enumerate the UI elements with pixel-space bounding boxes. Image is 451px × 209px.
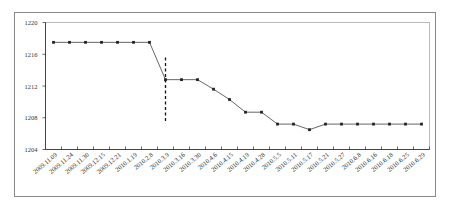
data-point xyxy=(180,78,183,81)
data-point xyxy=(212,88,215,91)
data-point xyxy=(100,41,103,44)
data-point xyxy=(148,41,151,44)
line-chart: 12041208121212161220 2009.11.092009.11.2… xyxy=(0,0,451,209)
data-point xyxy=(276,123,279,126)
y-tick-label: 1208 xyxy=(25,114,38,121)
data-point xyxy=(84,41,87,44)
y-tick-label: 1220 xyxy=(25,19,38,26)
data-point xyxy=(196,78,199,81)
data-point xyxy=(116,41,119,44)
data-point xyxy=(52,41,55,44)
data-point xyxy=(420,123,423,126)
data-point xyxy=(324,123,327,126)
data-point xyxy=(404,123,407,126)
data-point xyxy=(244,111,247,114)
data-point xyxy=(228,98,231,101)
data-point xyxy=(292,123,295,126)
y-tick-label: 1212 xyxy=(25,83,38,90)
data-point xyxy=(260,111,263,114)
data-point xyxy=(68,41,71,44)
data-point xyxy=(388,123,391,126)
data-point xyxy=(356,123,359,126)
data-point xyxy=(308,128,311,131)
data-point xyxy=(132,41,135,44)
data-point xyxy=(340,123,343,126)
data-point xyxy=(372,123,375,126)
y-tick-label: 1204 xyxy=(25,146,39,153)
y-tick-label: 1216 xyxy=(25,51,39,58)
data-point xyxy=(164,78,167,81)
